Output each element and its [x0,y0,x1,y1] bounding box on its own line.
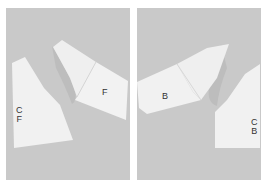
b-label: B [162,92,168,101]
cf-label: C F [16,106,23,124]
front-pieces-graphic [6,8,130,180]
front-pattern-photo: C F F [6,8,130,180]
back-pattern-photo: B C B [137,8,261,180]
cb-label: C B [251,118,258,136]
back-pieces-graphic [137,8,261,180]
f-label: F [102,88,108,97]
